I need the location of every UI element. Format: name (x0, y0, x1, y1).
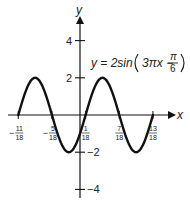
svg-text:18: 18 (82, 134, 90, 141)
equation-pi: π (170, 51, 177, 62)
svg-text:1: 1 (84, 125, 88, 132)
svg-text:18: 18 (149, 134, 157, 141)
equation-label: y = 2sin 3πx − π 6 (90, 51, 184, 74)
svg-text:18: 18 (15, 134, 23, 141)
svg-text:−: − (43, 128, 48, 138)
equation-den: 6 (170, 63, 176, 74)
y-tick-label: −2 (87, 146, 100, 158)
chart-plot: x y 42−2−4 1118−518−1187181318 y = 2sin … (0, 0, 190, 204)
y-tick-label: 4 (66, 35, 72, 47)
svg-text:18: 18 (115, 134, 123, 141)
y-tick-label: −4 (87, 183, 100, 195)
x-tick-label: 1118− (9, 125, 23, 141)
svg-text:11: 11 (16, 125, 23, 132)
y-tick-label: 2 (66, 72, 72, 84)
svg-text:18: 18 (49, 134, 57, 141)
y-axis-label: y (75, 3, 83, 17)
svg-text:7: 7 (117, 125, 121, 132)
x-axis-label: x (176, 108, 184, 122)
equation-lhs: y = 2sin (90, 56, 133, 70)
svg-text:−: − (9, 128, 14, 138)
